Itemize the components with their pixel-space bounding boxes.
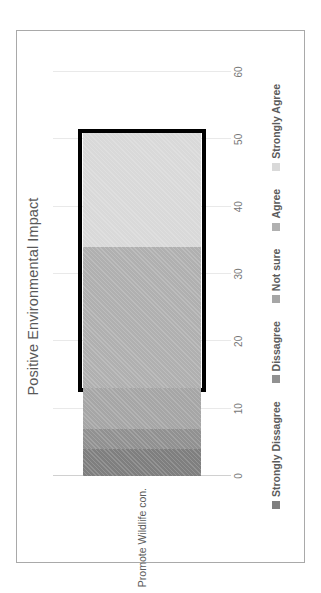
tick-label-30: 30 <box>233 268 244 279</box>
tick-label-0: 0 <box>233 473 244 479</box>
legend-item-strongly-dissagree[interactable]: Strongly Dissagree <box>270 401 282 509</box>
stacked-bar-promote-wildlife[interactable] <box>83 72 201 476</box>
legend-label: Not sure <box>270 249 282 292</box>
tick-label-20: 20 <box>233 336 244 347</box>
legend-label: Strongly Agree <box>270 84 282 159</box>
legend-swatch-icon <box>272 375 280 383</box>
legend-swatch-icon <box>272 163 280 171</box>
legend-swatch-icon <box>272 295 280 303</box>
legend-item-not-sure[interactable]: Not sure <box>270 249 282 304</box>
legend-item-strongly-agree[interactable]: Strongly Agree <box>270 84 282 171</box>
bar-segment-dissagree[interactable] <box>83 429 201 449</box>
legend-swatch-icon <box>272 501 280 509</box>
legend-item-dissagree[interactable]: Dissagree <box>270 321 282 383</box>
plot-area <box>53 72 231 476</box>
tick-label-10: 10 <box>233 403 244 414</box>
tick-label-60: 60 <box>233 66 244 77</box>
bar-segment-strongly-agree[interactable] <box>83 133 201 247</box>
tick-label-40: 40 <box>233 201 244 212</box>
bar-segment-strongly-dissagree[interactable] <box>83 449 201 476</box>
chart-title: Positive Environmental Impact <box>25 31 41 562</box>
value-axis-ticks: 0102030405060 <box>233 72 251 476</box>
chart-frame: Positive Environmental Impact Promote Wi… <box>16 30 305 563</box>
legend-label: Dissagree <box>270 321 282 371</box>
tick-label-50: 50 <box>233 134 244 145</box>
category-axis-label-group: Promote Wildlife con. <box>53 482 231 562</box>
legend-label: Agree <box>270 189 282 219</box>
chart-page: Positive Environmental Impact Promote Wi… <box>0 0 321 593</box>
legend-swatch-icon <box>272 223 280 231</box>
legend-label: Strongly Dissagree <box>270 401 282 497</box>
legend-item-agree[interactable]: Agree <box>270 189 282 231</box>
chart-rotated-stage: Positive Environmental Impact Promote Wi… <box>17 31 304 562</box>
bar-segment-agree[interactable] <box>83 247 201 388</box>
bar-segment-not-sure[interactable] <box>83 388 201 428</box>
category-label-promote-wildlife: Promote Wildlife con. <box>136 488 148 587</box>
chart-legend: Strongly DissagreeDissagreeNot sureAgree… <box>263 31 289 562</box>
